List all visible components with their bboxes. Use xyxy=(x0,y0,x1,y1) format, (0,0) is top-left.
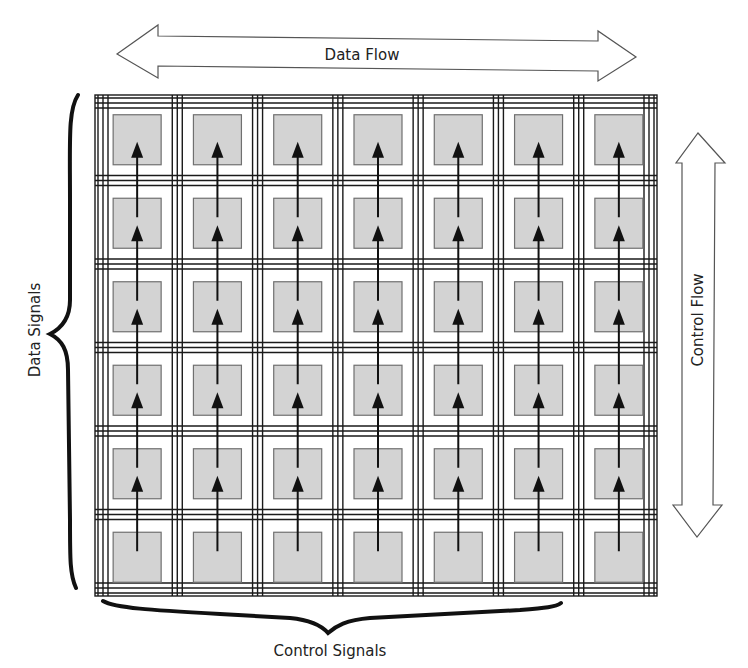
data-signals-label: Data Signals xyxy=(26,283,44,378)
control-signals-brace: Control Signals xyxy=(103,601,561,660)
diagram-canvas: Data Flow Control Flow Data Signals Cont… xyxy=(0,0,748,668)
control-flow-arrow: Control Flow xyxy=(673,133,725,537)
control-signals-label: Control Signals xyxy=(274,642,387,660)
data-signals-brace: Data Signals xyxy=(26,95,78,588)
brace-icon xyxy=(103,601,561,633)
data-flow-label: Data Flow xyxy=(325,46,400,64)
control-flow-label: Control Flow xyxy=(689,273,707,366)
processing-element-grid xyxy=(95,95,657,596)
data-flow-arrow: Data Flow xyxy=(117,25,636,81)
brace-icon xyxy=(50,95,78,588)
grid-frame xyxy=(95,95,657,596)
